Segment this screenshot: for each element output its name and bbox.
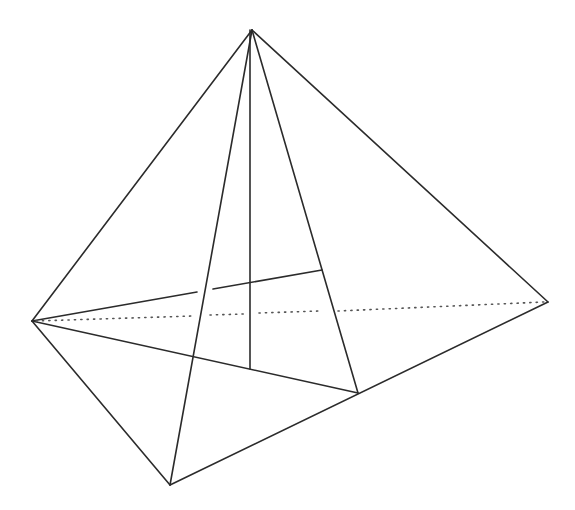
edge-apex-left bbox=[32, 30, 252, 321]
hidden-edges bbox=[36, 302, 544, 321]
hidden-edge-left-right-hidden-d bbox=[338, 302, 544, 311]
edge-left-bottom bbox=[32, 321, 170, 485]
edge-left-mid bbox=[32, 321, 358, 393]
pyramid-diagram bbox=[0, 0, 575, 510]
edge-apex-right bbox=[252, 30, 548, 302]
edge-bottom-right bbox=[170, 302, 548, 485]
edge-apex-bottom bbox=[170, 30, 252, 485]
solid-edges bbox=[32, 30, 548, 485]
edge-left-inner-b bbox=[213, 270, 322, 289]
hidden-edge-left-right-hidden-b bbox=[210, 314, 244, 315]
hidden-edge-left-right-hidden-c bbox=[259, 311, 320, 313]
edge-apex-mid bbox=[252, 30, 358, 393]
